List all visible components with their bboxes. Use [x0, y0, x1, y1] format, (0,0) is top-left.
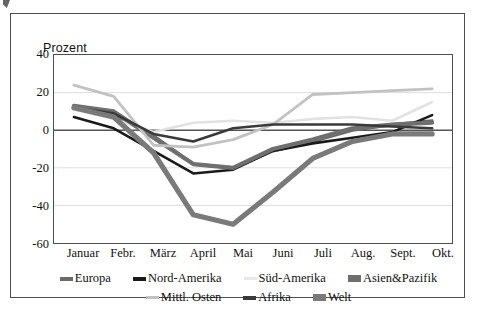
- legend-label: Nord-Amerika: [148, 271, 222, 286]
- legend-label: Afrika: [258, 290, 291, 305]
- series-canvas: [54, 55, 452, 243]
- plot-container: Prozent 40200-20-40-60: [43, 41, 455, 244]
- x-axis-tick-label: Juli: [314, 246, 332, 261]
- y-axis-tick-labels: 40200-20-40-60: [15, 54, 49, 244]
- y-axis-tick-label: -20: [19, 161, 49, 176]
- y-axis-tick-label: 20: [19, 85, 49, 100]
- legend-row: Mittl. OstenAfrikaWelt: [21, 288, 476, 307]
- scan-artifact-mark: [3, 0, 10, 8]
- legend-item[interactable]: Asien&Pazifik: [348, 271, 437, 286]
- legend-label: Süd-Amerika: [259, 271, 326, 286]
- legend-item[interactable]: Europa: [60, 271, 111, 286]
- x-axis-tick-label: April: [190, 246, 216, 261]
- x-axis-tick-label: März: [150, 246, 176, 261]
- legend-swatch-icon: [146, 296, 159, 299]
- legend-label: Welt: [328, 290, 351, 305]
- legend-item[interactable]: Afrika: [243, 290, 291, 305]
- x-axis-tick-label: Juni: [273, 246, 294, 261]
- chart-outer-border: Prozent 40200-20-40-60 JanuarFebr.MärzAp…: [10, 13, 465, 298]
- legend-row: EuropaNord-AmerikaSüd-AmerikaAsien&Pazif…: [21, 269, 476, 288]
- chart-legend: EuropaNord-AmerikaSüd-AmerikaAsien&Pazif…: [21, 269, 476, 307]
- legend-label: Europa: [75, 271, 111, 286]
- x-axis-tick-label: Sept.: [390, 246, 415, 261]
- y-axis-tick-label: -60: [19, 237, 49, 252]
- x-axis-tick-label: Aug.: [351, 246, 376, 261]
- y-axis-title: Prozent: [43, 41, 87, 55]
- legend-item[interactable]: Nord-Amerika: [133, 271, 222, 286]
- chart-screenshot: Prozent 40200-20-40-60 JanuarFebr.MärzAp…: [0, 0, 478, 315]
- y-axis-tick-label: 40: [19, 47, 49, 62]
- legend-swatch-icon: [244, 277, 257, 280]
- legend-item[interactable]: Welt: [313, 290, 351, 305]
- legend-item[interactable]: Mittl. Osten: [146, 290, 221, 305]
- x-axis-tick-label: Okt.: [432, 246, 454, 261]
- legend-item[interactable]: Süd-Amerika: [244, 271, 326, 286]
- x-axis-tick-label: Januar: [67, 246, 100, 261]
- legend-swatch-icon: [243, 296, 256, 300]
- x-axis-tick-label: Febr.: [110, 246, 135, 261]
- legend-swatch-icon: [348, 275, 361, 282]
- legend-swatch-icon: [133, 277, 146, 281]
- legend-label: Asien&Pazifik: [363, 271, 437, 286]
- legend-swatch-icon: [313, 294, 326, 301]
- x-axis-tick-label: Mai: [233, 246, 253, 261]
- legend-swatch-icon: [60, 277, 73, 281]
- plot-area: [53, 54, 453, 244]
- y-axis-tick-label: 0: [19, 123, 49, 138]
- legend-label: Mittl. Osten: [161, 290, 221, 305]
- y-axis-tick-label: -40: [19, 199, 49, 214]
- x-axis-tick-labels: JanuarFebr.MärzAprilMaiJuniJuliAug.Sept.…: [53, 246, 465, 268]
